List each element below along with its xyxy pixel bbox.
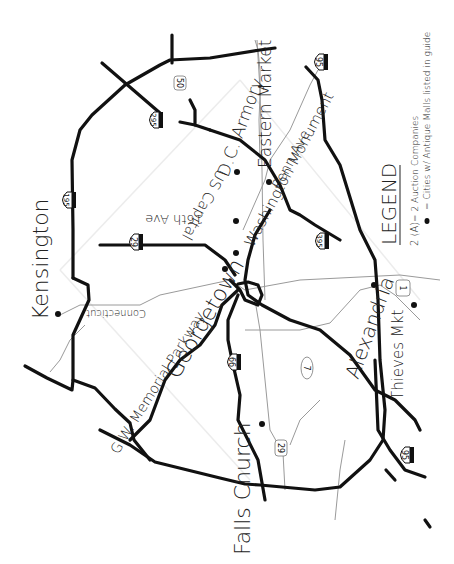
label-us-capital: US Capital xyxy=(178,166,230,243)
label-kensington: Kensington xyxy=(28,198,53,320)
shield-50: 50 xyxy=(174,76,186,90)
label-connecticut: Connecticut xyxy=(86,308,146,319)
legend-text-malls: = Cities w/ Antique Malls listed in guid… xyxy=(422,32,432,210)
svg-text:295: 295 xyxy=(149,113,157,126)
monument-dot xyxy=(233,250,239,256)
legend-text-auction: = 2 Auction Companies xyxy=(410,116,420,222)
svg-text:66: 66 xyxy=(227,357,236,367)
shield-395: 395 xyxy=(315,233,329,249)
shield-7: 7 xyxy=(301,357,313,379)
svg-text:95: 95 xyxy=(400,450,409,460)
shield-295: 295 xyxy=(149,112,163,128)
kensington-dot xyxy=(55,311,61,317)
legend-dot-icon xyxy=(425,218,430,224)
label-thieves-mkt: Thieves Mkt xyxy=(389,310,407,400)
shield-95-bottom: 95 xyxy=(400,447,414,463)
svg-text:395: 395 xyxy=(315,234,323,247)
shield-66: 66 xyxy=(227,354,241,370)
falls-church-dot xyxy=(259,421,265,427)
label-falls-church: Falls Church xyxy=(230,422,255,555)
shield-29: 29 xyxy=(129,234,143,250)
svg-text:95: 95 xyxy=(314,57,323,67)
shield-us-29: 29 xyxy=(275,440,287,456)
legend-symbol-auction: 2 (A) xyxy=(409,222,420,246)
svg-text:7: 7 xyxy=(302,365,311,370)
label-eastern-market: Eastern Market xyxy=(255,40,275,168)
shield-195: 195 xyxy=(62,192,76,208)
shield-95-top: 95 xyxy=(314,54,328,70)
svg-text:50: 50 xyxy=(175,78,184,88)
svg-text:LEGEND: LEGEND xyxy=(377,163,401,245)
svg-text:29: 29 xyxy=(129,237,138,247)
label-gw-parkway: G.W. Memorial Parkway xyxy=(107,309,208,457)
svg-text:195: 195 xyxy=(62,193,70,206)
map-canvas: 95 295 50 195 29 395 66 xyxy=(0,0,454,564)
thieves-mkt-dot xyxy=(411,302,417,308)
map: 95 295 50 195 29 395 66 xyxy=(0,0,454,564)
label-16th-ave: 16th Ave xyxy=(145,212,203,227)
svg-text:1: 1 xyxy=(398,285,407,290)
svg-text:29: 29 xyxy=(276,443,285,453)
capital-dot xyxy=(233,218,239,224)
